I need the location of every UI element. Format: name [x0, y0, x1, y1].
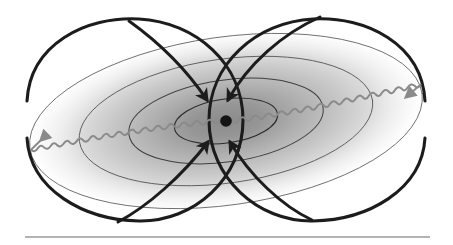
figure-container: A central point mass surrounded by conce… [0, 0, 453, 245]
central-mass-dot [220, 115, 232, 127]
field-diagram-svg [0, 0, 453, 245]
